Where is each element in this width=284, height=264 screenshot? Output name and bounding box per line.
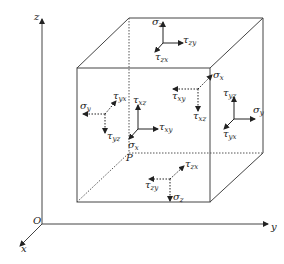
tau-zx-bottom-label: τzx — [185, 159, 198, 171]
x-axis-label: x — [21, 244, 27, 254]
y-axis-label: y — [271, 222, 277, 232]
sigma-z-bottom-label: σz — [173, 192, 184, 204]
diagram-lines — [0, 0, 284, 264]
tau-yz-left-label: τyz — [107, 131, 120, 143]
point-p-label: P — [126, 153, 133, 163]
stress-cube-diagram: z y x O P σz τzy τzx σy τyx τyz τxz τxy … — [0, 0, 284, 264]
tau-xz-back-label: τxz — [193, 111, 206, 123]
sigma-x-back-label: σx — [213, 70, 224, 82]
tau-yx-right-label: τyx — [223, 129, 236, 141]
tau-zy-top-label: τzy — [183, 35, 196, 47]
tau-yx-left-label: τyx — [113, 91, 126, 103]
origin-label: O — [33, 216, 41, 226]
tau-xz-front-label: τxz — [133, 95, 146, 107]
sigma-y-left-label: σy — [80, 101, 91, 113]
sigma-y-right-label: σy — [253, 105, 264, 117]
tau-xy-front-label: τxy — [159, 122, 172, 134]
z-axis-label: z — [34, 12, 39, 22]
tau-zx-top-label: τzx — [155, 52, 168, 64]
tau-yz-right-label: τyz — [223, 88, 236, 100]
tau-xy-back-label: τxy — [172, 91, 185, 103]
cube-front-face — [77, 68, 210, 202]
tau-zy-bottom-label: τzy — [145, 180, 158, 192]
sigma-x-front-label: σx — [128, 140, 139, 152]
sigma-z-top-label: σz — [152, 17, 163, 29]
